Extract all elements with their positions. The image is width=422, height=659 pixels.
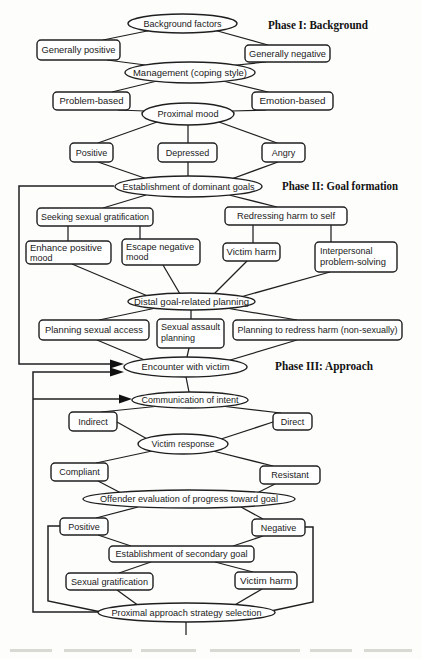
enhance-positive-mood-line2: mood xyxy=(30,253,53,263)
node-emotion-based: Emotion-based xyxy=(252,92,333,110)
victim-response-label: Victim response xyxy=(152,439,215,449)
planning-sexual-access-label: Planning sexual access xyxy=(45,325,144,335)
node-indirect: Indirect xyxy=(69,412,117,431)
redressing-harm-label: Redressing harm to self xyxy=(237,211,336,221)
node-seeking-sexual-gratification: Seeking sexual gratification xyxy=(37,208,153,226)
positive-evaluation-label: Positive xyxy=(68,522,100,532)
secondary-goal-label: Establishment of secondary goal xyxy=(116,549,248,559)
escape-negative-mood-line1: Escape negative xyxy=(126,242,194,252)
interpersonal-line2: problem-solving xyxy=(320,257,386,267)
offender-evaluation-label: Offender evaluation of progress toward g… xyxy=(100,494,278,504)
seeking-sexual-gratification-label: Seeking sexual gratification xyxy=(41,212,149,222)
node-victim-harm-goal: Victim harm xyxy=(223,243,280,261)
node-planning-redress-harm: Planning to redress harm (non-sexually) xyxy=(233,320,402,340)
node-escape-negative-mood: Escape negative mood xyxy=(122,239,200,265)
node-victim-harm-secondary: Victim harm xyxy=(235,572,297,589)
phase-1-label: Phase I: Background xyxy=(268,19,369,32)
phase-2-label: Phase II: Goal formation xyxy=(282,180,399,192)
distal-planning-label: Distal goal-related planning xyxy=(134,297,249,307)
problem-based-label: Problem-based xyxy=(60,96,124,106)
management-label: Management (coping style) xyxy=(133,68,247,78)
node-generally-positive: Generally positive xyxy=(37,40,120,60)
node-distal-planning: Distal goal-related planning xyxy=(128,293,255,310)
node-positive-mood: Positive xyxy=(70,143,113,162)
node-sexual-assault-planning: Sexual assault planning xyxy=(157,319,224,348)
proximal-mood-label: Proximal mood xyxy=(158,109,219,119)
node-enhance-positive-mood: Enhance positive mood xyxy=(26,241,111,264)
arrowhead-encounter-2-icon xyxy=(110,368,124,377)
generally-positive-label: Generally positive xyxy=(42,45,116,55)
node-encounter-with-victim: Encounter with victim xyxy=(124,357,247,377)
phase-3-label: Phase III: Approach xyxy=(275,360,374,373)
direct-label: Direct xyxy=(281,417,305,427)
node-positive-evaluation: Positive xyxy=(60,518,108,535)
node-dominant-goals: Establishment of dominant goals xyxy=(115,176,262,197)
proximal-approach-label: Proximal approach strategy selection xyxy=(112,608,262,618)
resistant-label: Resistant xyxy=(271,470,309,480)
feedback-negative-to-proximal-approach xyxy=(271,527,313,611)
dominant-goals-label: Establishment of dominant goals xyxy=(123,182,256,192)
node-victim-response: Victim response xyxy=(138,434,228,454)
victim-harm-secondary-label: Victim harm xyxy=(240,576,292,586)
node-angry-mood: Angry xyxy=(262,143,305,162)
node-sexual-gratification: Sexual gratification xyxy=(66,573,153,590)
node-management: Management (coping style) xyxy=(125,62,255,83)
positive-mood-label: Positive xyxy=(76,148,108,158)
node-background-factors: Background factors xyxy=(128,14,237,33)
feedback-positive-to-proximal-approach xyxy=(48,526,101,612)
background-factors-label: Background factors xyxy=(144,19,222,29)
planning-redress-harm-label: Planning to redress harm (non-sexually) xyxy=(238,325,398,335)
generally-negative-label: Generally negative xyxy=(249,49,326,59)
flowchart-page: Phase I: Background Phase II: Goal forma… xyxy=(0,0,422,659)
node-proximal-mood: Proximal mood xyxy=(142,103,234,125)
sexual-gratification-label: Sexual gratification xyxy=(71,577,148,587)
node-secondary-goal: Establishment of secondary goal xyxy=(109,546,254,562)
node-proximal-approach: Proximal approach strategy selection xyxy=(98,603,275,622)
arrowhead-encounter-1-icon xyxy=(110,360,124,369)
node-problem-based: Problem-based xyxy=(53,92,130,110)
node-offender-evaluation: Offender evaluation of progress toward g… xyxy=(83,490,295,508)
node-communication-of-intent: Communication of intent xyxy=(132,392,248,408)
node-planning-sexual-access: Planning sexual access xyxy=(39,320,149,340)
arrowhead-communication-icon xyxy=(119,395,132,404)
sexual-assault-planning-line2: planning xyxy=(161,333,195,343)
compliant-label: Compliant xyxy=(59,467,100,477)
angry-mood-label: Angry xyxy=(272,148,296,158)
offense-process-flowchart: Phase I: Background Phase II: Goal forma… xyxy=(0,0,422,659)
sexual-assault-planning-line1: Sexual assault xyxy=(161,322,220,332)
node-direct: Direct xyxy=(273,413,312,430)
node-negative-evaluation: Negative xyxy=(252,519,305,536)
node-depressed-mood: Depressed xyxy=(158,143,217,162)
negative-evaluation-label: Negative xyxy=(261,523,297,533)
encounter-label: Encounter with victim xyxy=(142,362,230,372)
emotion-based-label: Emotion-based xyxy=(260,96,326,106)
victim-harm-goal-label: Victim harm xyxy=(227,247,277,257)
node-resistant: Resistant xyxy=(260,466,320,484)
indirect-label: Indirect xyxy=(78,417,108,427)
enhance-positive-mood-line1: Enhance positive xyxy=(30,243,102,253)
node-compliant: Compliant xyxy=(51,463,108,481)
node-generally-negative: Generally negative xyxy=(245,45,330,62)
node-interpersonal-problem-solving: Interpersonal problem-solving xyxy=(315,242,397,272)
communication-label: Communication of intent xyxy=(142,395,239,405)
escape-negative-mood-line2: mood xyxy=(126,252,149,262)
depressed-mood-label: Depressed xyxy=(166,148,210,158)
node-redressing-harm-to-self: Redressing harm to self xyxy=(225,207,347,225)
interpersonal-line1: Interpersonal xyxy=(320,246,373,256)
